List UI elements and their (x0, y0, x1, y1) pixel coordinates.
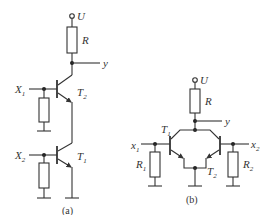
supply-label-a: U (77, 10, 86, 22)
collector-resistor-b (190, 89, 200, 113)
svg-text:T1: T1 (77, 150, 87, 165)
base-resistor-label-r1-b: R1 (135, 158, 146, 173)
supply-terminal-b (193, 78, 198, 83)
circuit-diagram: U R y T2 X1 T1 (0, 0, 270, 215)
input-label-x1-b: x1 (130, 139, 139, 154)
input-label-x2-a: X2 (14, 149, 26, 164)
base-resistor-2-a (39, 163, 49, 188)
base-resistor-label-r2-b: R2 (242, 158, 254, 173)
input-label-x1-a: X1 (14, 83, 25, 98)
collector-resistor-a (67, 27, 77, 53)
transistor-t1-a: T1 (57, 143, 87, 198)
svg-text:T2: T2 (207, 165, 217, 180)
transistor-t1-b: T1 (161, 123, 183, 158)
collector-resistor-label-a: R (81, 34, 89, 46)
collector-resistor-label-b: R (204, 95, 212, 107)
svg-text:T2: T2 (77, 86, 87, 101)
svg-text:T1: T1 (161, 123, 171, 138)
supply-terminal-a (70, 14, 75, 19)
base-resistor-1-a (39, 98, 49, 122)
transistor-t2-a: T2 (57, 75, 87, 143)
circuit-b: U R y T1 T2 x1 R1 (130, 74, 260, 206)
input-label-x2-b: x2 (250, 138, 260, 153)
circuit-a: U R y T2 X1 T1 (14, 10, 108, 215)
caption-b: (b) (186, 194, 198, 206)
base-resistor-r1-b (150, 152, 160, 177)
output-label-a: y (102, 57, 108, 69)
transistor-t2-b: T2 (207, 136, 220, 180)
supply-label-b: U (200, 74, 209, 86)
output-label-b: y (224, 115, 230, 127)
caption-a: (a) (62, 205, 73, 215)
base-resistor-r2-b (228, 152, 238, 177)
